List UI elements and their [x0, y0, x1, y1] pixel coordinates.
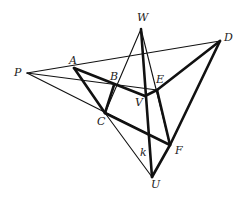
- label-F: F: [175, 145, 183, 156]
- diagram-canvas: [0, 0, 244, 197]
- label-C: C: [97, 116, 105, 127]
- segment-DF-bold: [170, 41, 220, 145]
- label-V: V: [135, 97, 143, 108]
- segment-ED-bold: [157, 41, 220, 90]
- label-k: k: [140, 147, 147, 158]
- label-E: E: [156, 74, 164, 85]
- label-A: A: [69, 55, 77, 66]
- segment-PD: [27, 41, 220, 73]
- geometry-diagram: PABCWDEVFUk: [0, 0, 244, 197]
- segment-EF-bold: [157, 90, 170, 145]
- label-P: P: [14, 67, 21, 78]
- label-W: W: [137, 12, 148, 23]
- segment-FU-bold: [152, 145, 170, 177]
- label-D: D: [224, 32, 233, 43]
- segment-BC-bold: [105, 85, 114, 113]
- label-U: U: [151, 179, 160, 190]
- segment-CU: [105, 113, 152, 177]
- segment-CF-bold: [105, 113, 170, 145]
- label-B: B: [110, 71, 118, 82]
